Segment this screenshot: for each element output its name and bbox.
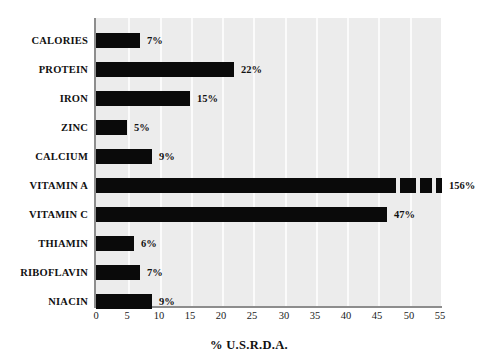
bar-row-thiamin: THIAMIN 6% (0, 229, 498, 258)
bar-iron (96, 91, 190, 106)
bar-thiamin (96, 236, 134, 251)
xtick-30: 30 (272, 310, 296, 321)
category-label-riboflavin: RIBOFLAVIN (0, 258, 88, 287)
bar-vitamin-a (96, 178, 396, 193)
value-label-thiamin: 6% (141, 229, 157, 258)
category-label-vitamin-c: VITAMIN C (0, 200, 88, 229)
bar-row-zinc: ZINC 5% (0, 113, 498, 142)
bar-row-iron: IRON 15% (0, 84, 498, 113)
bar-row-calories: CALORIES 7% (0, 26, 498, 55)
category-label-zinc: ZINC (0, 113, 88, 142)
xtick-20: 20 (209, 310, 233, 321)
xtick-50: 50 (397, 310, 421, 321)
category-label-protein: PROTEIN (0, 55, 88, 84)
xtick-15: 15 (178, 310, 202, 321)
bar-vitamin-a-segment-3 (436, 178, 442, 193)
xtick-35: 35 (303, 310, 327, 321)
category-label-niacin: NIACIN (0, 287, 88, 316)
bar-calories (96, 33, 140, 48)
value-label-iron: 15% (197, 84, 218, 113)
category-label-iron: IRON (0, 84, 88, 113)
xtick-10: 10 (147, 310, 171, 321)
bar-row-riboflavin: RIBOFLAVIN 7% (0, 258, 498, 287)
bar-row-vitamin-c: VITAMIN C 47% (0, 200, 498, 229)
bar-niacin (96, 294, 152, 309)
bar-vitamin-c (96, 207, 387, 222)
xtick-55: 55 (428, 310, 452, 321)
bar-vitamin-a-segment-1 (400, 178, 416, 193)
category-label-calcium: CALCIUM (0, 142, 88, 171)
value-label-vitamin-c: 47% (394, 200, 415, 229)
bar-row-calcium: CALCIUM 9% (0, 142, 498, 171)
xtick-0: 0 (84, 310, 108, 321)
value-label-calcium: 9% (159, 142, 175, 171)
value-label-riboflavin: 7% (147, 258, 163, 287)
xtick-40: 40 (334, 310, 358, 321)
bar-row-protein: PROTEIN 22% (0, 55, 498, 84)
bar-riboflavin (96, 265, 140, 280)
bar-calcium (96, 149, 152, 164)
bar-chart-figure: CALORIES 7% PROTEIN 22% IRON 15% ZINC 5%… (0, 0, 498, 363)
value-label-calories: 7% (147, 26, 163, 55)
x-axis-title: % U.S.R.D.A. (0, 338, 498, 353)
xtick-25: 25 (240, 310, 264, 321)
bar-vitamin-a-segment-2 (420, 178, 432, 193)
bar-protein (96, 62, 234, 77)
category-label-vitamin-a: VITAMIN A (0, 171, 88, 200)
value-label-zinc: 5% (134, 113, 150, 142)
bar-zinc (96, 120, 127, 135)
value-label-vitamin-a: 156% (449, 171, 475, 200)
xtick-5: 5 (115, 310, 139, 321)
xtick-45: 45 (365, 310, 389, 321)
bar-row-vitamin-a: VITAMIN A 156% (0, 171, 498, 200)
category-label-thiamin: THIAMIN (0, 229, 88, 258)
value-label-protein: 22% (241, 55, 262, 84)
category-label-calories: CALORIES (0, 26, 88, 55)
